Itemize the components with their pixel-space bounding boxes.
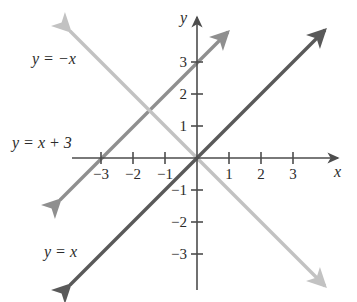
y-tick-label-1: 1 bbox=[173, 119, 187, 134]
y-tick-label-3: 3 bbox=[173, 55, 187, 70]
graph-figure: y x y = −x y = x + 3 y = x −3 −2 −1 1 2 … bbox=[0, 0, 357, 302]
y-tick-label-minus-3: −3 bbox=[166, 247, 187, 262]
equation-label-y-equals-x-plus-3: y = x + 3 bbox=[12, 135, 72, 151]
y-axis-label: y bbox=[180, 10, 187, 26]
equation-label-y-equals-negative-x: y = −x bbox=[32, 51, 76, 67]
x-tick-label-1: 1 bbox=[223, 167, 235, 182]
x-tick-label-minus-3: −3 bbox=[92, 167, 110, 182]
x-tick-label-minus-1: −1 bbox=[156, 167, 174, 182]
y-tick-label-minus-2: −2 bbox=[166, 215, 187, 230]
x-tick-label-minus-2: −2 bbox=[124, 167, 142, 182]
x-axis-label: x bbox=[334, 164, 341, 180]
y-tick-label-minus-1: −1 bbox=[166, 183, 187, 198]
y-tick-label-2: 2 bbox=[173, 87, 187, 102]
line-y-equals-x-plus-3 bbox=[60, 32, 228, 200]
x-tick-label-2: 2 bbox=[255, 167, 267, 182]
x-tick-label-3: 3 bbox=[287, 167, 299, 182]
equation-label-y-equals-x: y = x bbox=[44, 244, 77, 260]
